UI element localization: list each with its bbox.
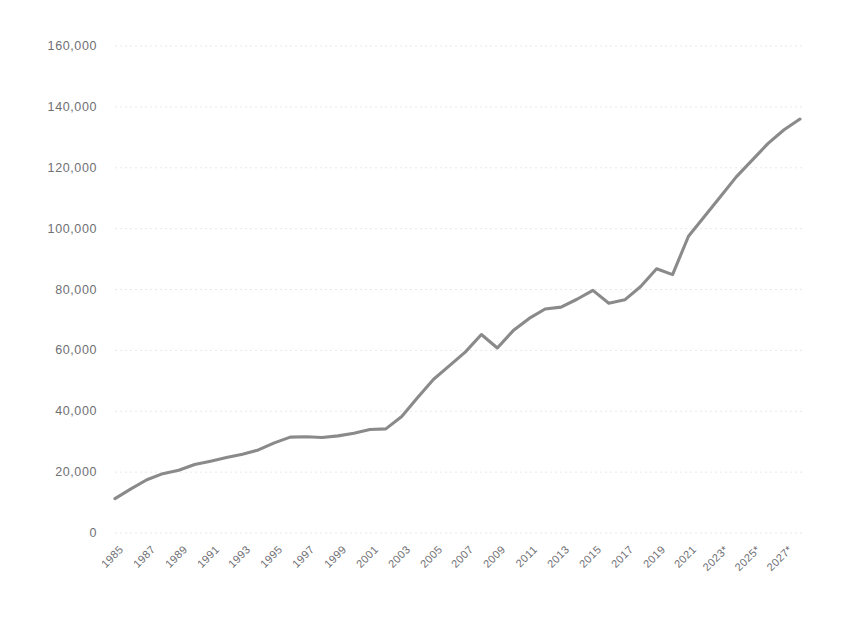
plot-area (0, 0, 842, 619)
line-chart: 020,00040,00060,00080,000100,000120,0001… (0, 0, 842, 619)
data-series-line (115, 119, 800, 499)
